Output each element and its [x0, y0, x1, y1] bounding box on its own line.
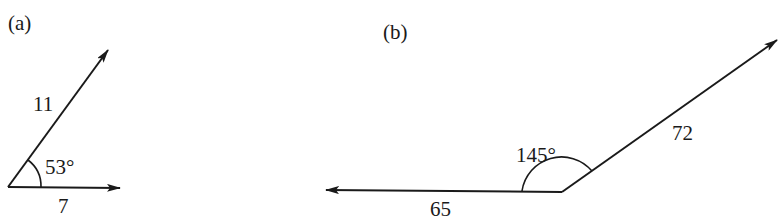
magnitude-label-11: 11: [33, 94, 53, 115]
magnitude-label-65: 65: [430, 199, 451, 220]
magnitude-label-72: 72: [672, 123, 693, 144]
figure-b: [326, 40, 777, 192]
figure-b-label: (b): [383, 22, 408, 43]
figure-a-label: (a): [8, 13, 31, 34]
vector-65-arrow: [326, 190, 562, 192]
magnitude-label-7: 7: [58, 196, 69, 217]
angle-label-53: 53°: [45, 157, 74, 178]
angle-label-145: 145°: [516, 145, 556, 166]
vector-7-arrow: [8, 187, 120, 188]
vector-72-arrow: [562, 40, 777, 192]
angle-arc-53: [28, 160, 41, 187]
